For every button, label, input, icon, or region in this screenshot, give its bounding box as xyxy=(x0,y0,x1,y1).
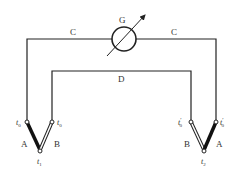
galvanometer-icon xyxy=(107,15,145,56)
left-leg-a-label: A xyxy=(21,139,28,149)
right-leg-a-label: A xyxy=(216,139,223,149)
left-ref-left-label: t0 xyxy=(16,118,21,128)
galvanometer-label: G xyxy=(119,15,126,25)
wire-c-label-right: C xyxy=(171,27,177,37)
wire-d-label: D xyxy=(118,74,125,84)
wire-c-label-left: C xyxy=(70,27,76,37)
left-thermocouple xyxy=(25,120,54,153)
thermocouple-diagram: G C C D t0 t0 A B t1 t′0 t′0 B A t2 xyxy=(0,0,238,172)
right-leg-b-label: B xyxy=(184,139,190,149)
left-hot-label: t1 xyxy=(37,157,42,167)
left-leg-b-label: B xyxy=(54,139,60,149)
right-hot-label: t2 xyxy=(201,157,206,167)
right-ref-right-label: t′0 xyxy=(220,117,225,128)
right-thermocouple xyxy=(189,120,218,153)
left-ref-right-label: t0 xyxy=(57,118,62,128)
right-ref-left-label: t′0 xyxy=(178,117,183,128)
